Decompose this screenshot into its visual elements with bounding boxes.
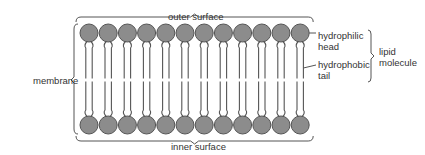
outer-tail-line	[123, 41, 126, 79]
inner-tail-line	[181, 82, 184, 118]
inner-tail-line	[206, 82, 209, 118]
outer-tail-line	[129, 41, 132, 79]
hydrophilic-head-icon	[157, 24, 175, 42]
outer-tail-line	[244, 41, 247, 79]
inner-tail-line	[162, 82, 165, 118]
inner-tail-line	[104, 82, 107, 118]
inner-leaflet-heads	[80, 116, 309, 134]
outer-tail-line	[302, 41, 305, 79]
outer-tail-line	[296, 41, 299, 79]
outer-tail-line	[91, 41, 94, 79]
hydrophilic-head-icon	[176, 24, 194, 42]
outer-tail-line	[239, 41, 242, 79]
inner-tail-line	[148, 82, 151, 118]
inner-tail-line	[123, 82, 126, 118]
outer-tail-line	[162, 41, 165, 79]
hydrophilic-head-icon	[195, 116, 213, 134]
hydrophilic-head-icon	[234, 24, 252, 42]
inner-tail-line	[129, 82, 132, 118]
inner-tail-line	[85, 82, 88, 118]
inner-tail-line	[187, 82, 190, 118]
outer-tail-line	[263, 41, 266, 79]
outer-tail-line	[283, 41, 286, 79]
hydrophilic-head-icon	[195, 24, 213, 42]
outer-tail-line	[258, 41, 261, 79]
hydrophobic-tail-label: hydrophobic tail	[318, 59, 370, 81]
outer-tail-line	[110, 41, 113, 79]
hydrophilic-head-icon	[176, 116, 194, 134]
inner-tail-line	[200, 82, 203, 118]
tail-label-line2: tail	[318, 70, 370, 81]
hydrophilic-head-label: hydrophilic head	[318, 30, 363, 52]
outer-tail-line	[167, 41, 170, 79]
outer-tail-line	[200, 41, 203, 79]
molecule-label-line2: molecule	[379, 57, 417, 68]
hydrophilic-head-icon	[118, 24, 136, 42]
hydrophobic-tails	[85, 41, 304, 117]
hydrophilic-head-icon	[138, 24, 156, 42]
inner-tail-line	[91, 82, 94, 118]
hydrophilic-head-icon	[272, 116, 290, 134]
inner-tail-line	[263, 82, 266, 118]
hydrophilic-head-icon	[291, 116, 309, 134]
inner-tail-line	[296, 82, 299, 118]
hydrophilic-head-icon	[234, 116, 252, 134]
outer-tail-line	[148, 41, 151, 79]
head-label-line2: head	[318, 41, 363, 52]
lipid-molecule-label: lipid molecule	[379, 46, 417, 68]
inner-tail-line	[244, 82, 247, 118]
outer-tail-line	[225, 41, 228, 79]
inner-tail-line	[239, 82, 242, 118]
lipid-label-line1: lipid	[379, 46, 417, 57]
hydrophilic-head-icon	[99, 116, 117, 134]
inner-tail-line	[302, 82, 305, 118]
outer-tail-line	[219, 41, 222, 79]
membrane-label: membrane	[33, 75, 78, 86]
hydrophilic-head-icon	[138, 116, 156, 134]
hydrophilic-head-icon	[253, 116, 271, 134]
outer-tail-line	[181, 41, 184, 79]
outer-tail-line	[104, 41, 107, 79]
hydrophilic-head-icon	[272, 24, 290, 42]
hydrophilic-head-icon	[214, 116, 232, 134]
outer-tail-line	[143, 41, 146, 79]
hydrophilic-label-line1: hydrophilic	[318, 30, 363, 41]
inner-tail-line	[225, 82, 228, 118]
inner-tail-line	[277, 82, 280, 118]
hydrophilic-head-icon	[99, 24, 117, 42]
inner-tail-line	[167, 82, 170, 118]
inner-tail-line	[143, 82, 146, 118]
inner-tail-line	[258, 82, 261, 118]
outer-tail-line	[85, 41, 88, 79]
inner-surface-label: inner surface	[171, 141, 226, 152]
hydrophilic-head-icon	[80, 116, 98, 134]
outer-surface-label: outer surface	[168, 11, 223, 22]
hydrophobic-label-line1: hydrophobic	[318, 59, 370, 70]
inner-tail-line	[110, 82, 113, 118]
hydrophilic-head-icon	[118, 116, 136, 134]
tail-pointer-line	[303, 65, 316, 68]
outer-tail-line	[206, 41, 209, 79]
outer-leaflet-heads	[80, 24, 309, 42]
inner-tail-line	[283, 82, 286, 118]
hydrophilic-head-icon	[214, 24, 232, 42]
outer-tail-line	[187, 41, 190, 79]
hydrophilic-head-icon	[253, 24, 271, 42]
hydrophilic-head-icon	[157, 116, 175, 134]
outer-tail-line	[277, 41, 280, 79]
hydrophilic-head-icon	[80, 24, 98, 42]
hydrophilic-head-icon	[291, 24, 309, 42]
inner-tail-line	[219, 82, 222, 118]
